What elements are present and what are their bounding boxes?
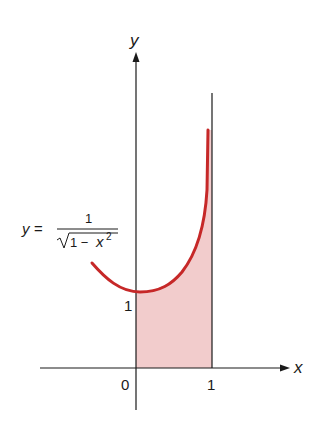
equation-denominator-x: x	[95, 233, 104, 250]
y-axis-label: y	[129, 31, 140, 50]
shaded-area	[136, 130, 212, 368]
origin-label: 0	[121, 376, 129, 393]
chart-canvas: y x 0 1 1 y = 1 1 − x 2	[0, 0, 334, 427]
x-axis-arrow-icon	[280, 365, 290, 372]
equation-numerator: 1	[85, 211, 92, 226]
x-axis-label: x	[293, 358, 303, 377]
equation-lhs: y =	[21, 220, 43, 237]
y-axis-arrow-icon	[133, 52, 140, 62]
y-tick-1-label: 1	[124, 297, 132, 314]
equation-denominator-a: 1 −	[70, 235, 88, 250]
x-tick-1-label: 1	[207, 376, 215, 393]
equation-annotation: y = 1 1 − x 2	[21, 211, 118, 250]
equation-denominator-exp: 2	[106, 231, 112, 242]
